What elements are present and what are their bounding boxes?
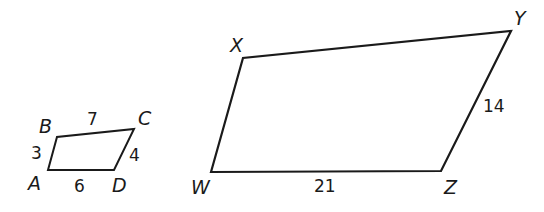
- vertex-label-x: X: [229, 34, 244, 56]
- vertex-label-b: B: [39, 115, 52, 137]
- vertex-label-a: A: [26, 172, 41, 194]
- quadrilateral-abcd: [48, 129, 134, 170]
- side-length-ad: 6: [74, 176, 85, 196]
- quadrilateral-wxyz: [211, 31, 511, 172]
- side-length-ab: 3: [31, 143, 42, 163]
- vertex-label-y: Y: [514, 7, 527, 29]
- vertex-label-w: W: [191, 176, 211, 198]
- side-length-wz: 21: [314, 176, 336, 196]
- similar-quadrilaterals-diagram: B C A D 7 3 4 6 X Y W Z 14 21: [0, 0, 544, 212]
- side-length-bc: 7: [87, 109, 98, 129]
- vertex-label-d: D: [112, 174, 127, 196]
- vertex-label-c: C: [138, 107, 152, 129]
- side-length-cd: 4: [129, 145, 140, 165]
- vertex-label-z: Z: [443, 176, 458, 198]
- side-length-yz: 14: [483, 96, 505, 116]
